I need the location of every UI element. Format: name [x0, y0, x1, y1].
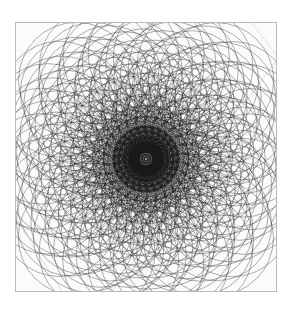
rosette-plot — [16, 23, 276, 291]
figure-canvas — [0, 0, 295, 316]
corner-guide-line — [252, 23, 276, 57]
figure-frame — [15, 22, 277, 292]
